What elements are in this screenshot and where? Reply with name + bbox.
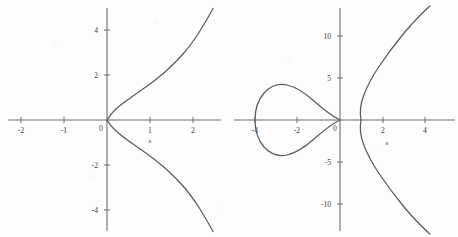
scanned-page: -2 -1 0 1 2 4 2 -2 -4 x [0, 0, 458, 237]
x-ticklabel-zero: 0 [333, 124, 337, 133]
x-ticklabel-4: 4 [423, 126, 427, 135]
y-ticklabel-2: 2 [94, 71, 98, 80]
y-ticklabel-5: 5 [327, 74, 331, 83]
unbounded-branch-lower [360, 120, 430, 234]
elliptic-curve-svg: -4 -2 0 2 4 10 5 -5 -10 x [229, 0, 458, 237]
y-ticklabel-neg2: -2 [92, 161, 99, 170]
x-ticklabel-1: 1 [148, 126, 152, 135]
unbounded-branch-upper [360, 6, 430, 120]
x-ticklabel-zero: 0 [99, 124, 103, 133]
y-ticklabel-neg4: -4 [92, 206, 99, 215]
cusp-upper-branch [107, 9, 213, 121]
cusp-curve-plot: -2 -1 0 1 2 4 2 -2 -4 x [0, 0, 229, 237]
x-ticklabel-2: 2 [191, 126, 195, 135]
elliptic-curve-plot: -4 -2 0 2 4 10 5 -5 -10 x [229, 0, 458, 237]
x-axis-label: x [385, 139, 389, 146]
x-ticklabel-2: 2 [381, 126, 385, 135]
y-ticklabel-neg10: -10 [321, 200, 331, 209]
y-ticklabel-10: 10 [323, 32, 331, 41]
cusp-lower-branch [107, 120, 213, 232]
y-ticklabel-neg5: -5 [325, 158, 332, 167]
x-ticklabel-neg2: -2 [18, 126, 25, 135]
x-ticklabel-neg2: -2 [294, 126, 301, 135]
cusp-curve-svg: -2 -1 0 1 2 4 2 -2 -4 x [0, 0, 229, 237]
y-ticklabel-4: 4 [94, 26, 98, 35]
x-ticklabel-neg1: -1 [61, 126, 68, 135]
x-axis-label: x [148, 137, 152, 144]
